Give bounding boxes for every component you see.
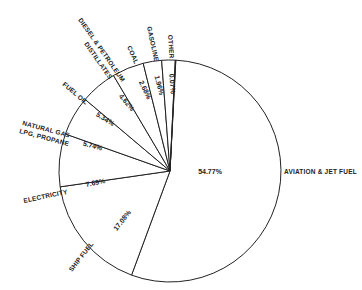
label-gasoline: GASOLINE [146, 26, 160, 63]
label-electricity: ELECTRICITY [23, 188, 69, 204]
label-diesel-line1: DIESEL & PETROLEUM [77, 17, 126, 83]
pct-aviation: 54.77% [198, 168, 223, 175]
pie-chart: 54.77% 17.08% 7.69% 5.74% 5.34% 4.62% 2.… [0, 0, 362, 290]
label-coal: COAL [126, 45, 140, 65]
label-other: OTHER [167, 35, 176, 59]
label-fueloil: FUEL OIL [61, 80, 89, 105]
label-aviation: AVIATION & JET FUEL [284, 168, 357, 175]
label-ship: SHIP FUEL [67, 240, 94, 272]
